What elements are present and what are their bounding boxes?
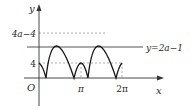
y-tick-four-label: 4: [30, 59, 36, 69]
horizontal-line-label: y=2a−1: [145, 43, 183, 53]
x-axis-arrow-icon: [157, 76, 164, 81]
origin-label: O: [27, 82, 35, 93]
x-axis-label: x: [156, 85, 162, 96]
function-graph: y x O 4a−4 4 π 2π y=2a−1: [0, 0, 191, 110]
y-axis-label: y: [28, 3, 35, 14]
y-tick-peak-label: 4a−4: [11, 29, 37, 39]
y-axis-arrow-icon: [37, 4, 42, 11]
x-tick-pi-label: π: [77, 84, 85, 94]
axes: [24, 7, 161, 106]
dashed-guides: [39, 33, 122, 78]
function-curve: [39, 46, 122, 78]
x-tick-two-pi-label: 2π: [116, 84, 128, 94]
